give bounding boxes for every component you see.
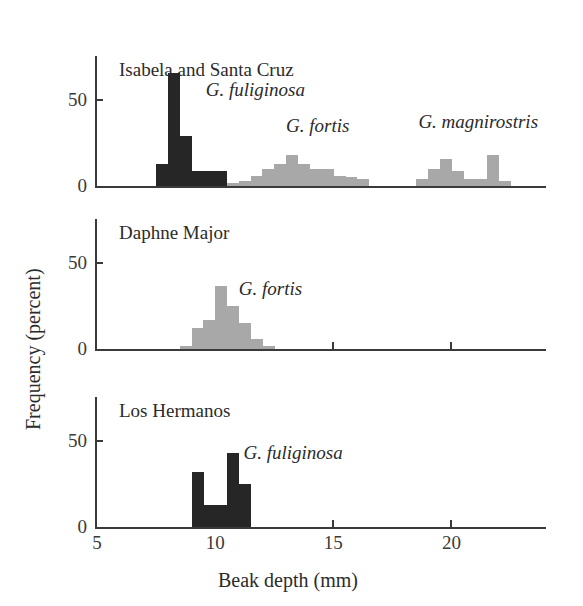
x-axis-tick-label: 10 xyxy=(190,533,240,552)
species-label: G. fuliginosa xyxy=(244,443,343,462)
x-axis-tick-label: 15 xyxy=(308,533,358,552)
histogram-bar xyxy=(239,484,251,527)
x-axis-tick-label: 20 xyxy=(426,533,476,552)
panel-title: Los Hermanos xyxy=(119,401,230,420)
y-axis-line xyxy=(95,397,97,529)
histogram-bar xyxy=(203,505,215,527)
x-axis-tick xyxy=(450,520,452,527)
x-axis-tick xyxy=(332,520,334,527)
histogram-bar xyxy=(227,453,239,527)
x-axis-line xyxy=(95,527,546,529)
x-axis-title: Beak depth (mm) xyxy=(30,569,546,592)
histogram-bar xyxy=(215,505,227,527)
x-axis-tick-label: 5 xyxy=(72,533,122,552)
panel-3: 050Los HermanosG. fuliginosa xyxy=(0,0,583,606)
histogram-bar xyxy=(192,472,204,527)
y-axis-tick xyxy=(95,440,103,442)
y-axis-tick-label: 50 xyxy=(39,431,87,450)
finch-beak-depth-figure: 050Isabela and Santa CruzG. fuliginosaG.… xyxy=(0,0,583,606)
y-axis-title: Frequency (percent) xyxy=(22,268,45,430)
